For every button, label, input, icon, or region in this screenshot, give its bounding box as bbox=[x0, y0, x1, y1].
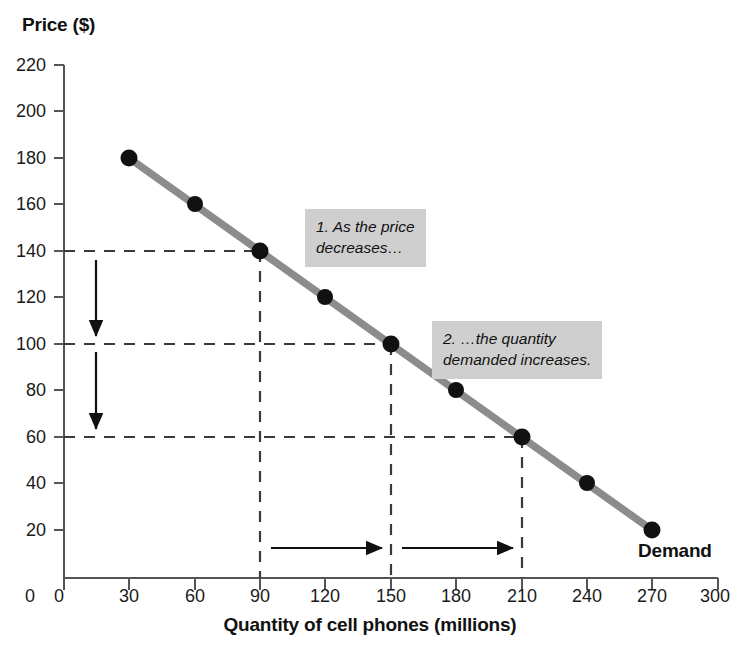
guide-lines bbox=[64, 251, 522, 578]
x-tick-label-30: 30 bbox=[119, 586, 139, 607]
data-point bbox=[187, 196, 203, 212]
annotation-callout-price-decreases: 1. As the price decreases… bbox=[305, 209, 426, 267]
x-tick-label-270: 270 bbox=[637, 586, 667, 607]
data-point bbox=[317, 289, 333, 305]
plot-area bbox=[0, 0, 740, 651]
y-tick-label-160: 160 bbox=[0, 194, 46, 215]
y-tick-label-40: 40 bbox=[0, 473, 46, 494]
y-tick-label-20: 20 bbox=[0, 520, 46, 541]
y-tick-label-60: 60 bbox=[0, 427, 46, 448]
y-tick-label-180: 180 bbox=[0, 148, 46, 169]
x-tick-label-120: 120 bbox=[310, 586, 340, 607]
data-point bbox=[644, 522, 661, 539]
annotation-callout-quantity-increases: 2. …the quantity demanded increases. bbox=[432, 321, 602, 379]
data-point bbox=[579, 475, 595, 491]
y-tick-label-80: 80 bbox=[0, 380, 46, 401]
x-tick-label-0: 0 bbox=[25, 586, 35, 607]
x-tick-label-90: 90 bbox=[250, 586, 270, 607]
y-tick-label-120: 120 bbox=[0, 287, 46, 308]
y-tick-label-220: 220 bbox=[0, 55, 46, 76]
data-point bbox=[448, 382, 464, 398]
y-tick-label-200: 200 bbox=[0, 101, 46, 122]
y-axis-ticks bbox=[54, 65, 64, 530]
x-tick-label-240: 240 bbox=[572, 586, 602, 607]
y-tick-label-140: 140 bbox=[0, 241, 46, 262]
data-point bbox=[252, 243, 269, 260]
demand-curve-label: Demand bbox=[638, 540, 712, 562]
demand-curve-figure: Price ($) Quantity of cell phones (milli… bbox=[0, 0, 740, 651]
x-tick-label-210: 210 bbox=[507, 586, 537, 607]
axis-lines bbox=[64, 65, 718, 578]
y-tick-label-100: 100 bbox=[0, 334, 46, 355]
data-point bbox=[514, 429, 531, 446]
x-tick-label-60: 60 bbox=[185, 586, 205, 607]
x-tick-label-150: 150 bbox=[376, 586, 406, 607]
data-point bbox=[121, 150, 138, 167]
data-point bbox=[383, 336, 400, 353]
x-tick-label-300: 300 bbox=[700, 586, 730, 607]
x-tick-label-180: 180 bbox=[441, 586, 471, 607]
